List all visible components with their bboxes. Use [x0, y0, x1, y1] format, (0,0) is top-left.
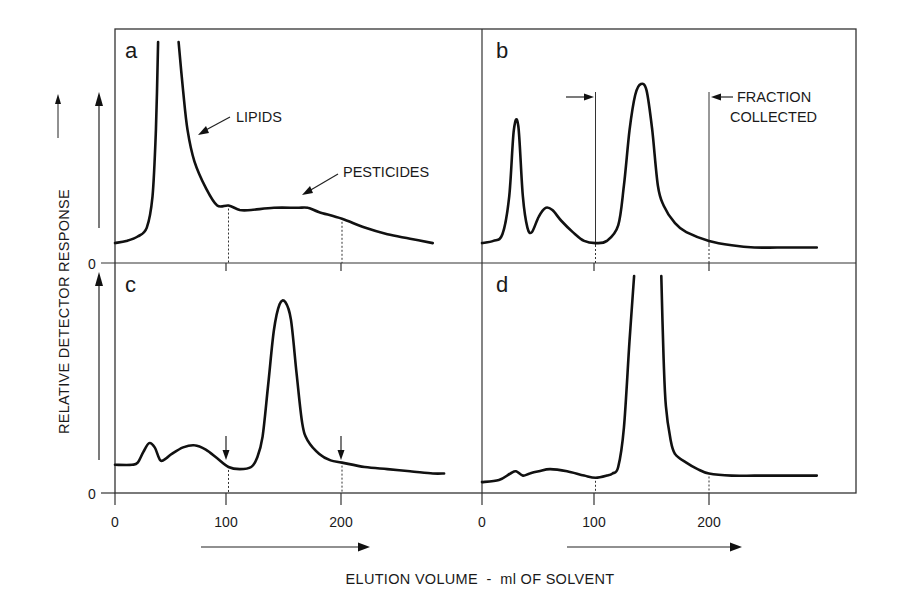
x-ticks-middle [226, 263, 709, 271]
x-arrow-right-icon [567, 543, 742, 552]
x-tick-200-right: 200 [697, 514, 721, 530]
chromatogram-curve-d [482, 276, 634, 482]
pesticides-pointer-icon [302, 174, 338, 195]
panel-a [115, 42, 433, 263]
x-tick-200-left: 200 [329, 514, 353, 530]
x-ticks-right: 0 100 200 [478, 493, 721, 530]
lipids-pointer-icon [198, 117, 230, 135]
y-axis-title-arrow-icon [55, 94, 61, 138]
y-arrow-top-icon [95, 92, 103, 228]
panel-c [115, 300, 444, 493]
panel-letter-b: b [496, 38, 508, 63]
chromatogram-curve-c [115, 300, 444, 473]
x-arrow-left-icon [201, 543, 370, 552]
cut-start-arrow-icon [223, 436, 230, 460]
svg-text:RELATIVE DETECTOR RESPONSE: RELATIVE DETECTOR RESPONSE [56, 189, 72, 434]
panel-letter-d: d [496, 272, 508, 297]
y-zero-label-top: 0 [88, 256, 96, 272]
annotation-pesticides: PESTICIDES [343, 164, 429, 180]
chromatogram-curve-a [115, 42, 158, 243]
fraction-start-arrow-icon [566, 94, 594, 101]
x-ticks-left: 0 100 200 [111, 493, 353, 530]
chromatogram-figure: 0 0 RELATIVE DETECTOR RESPONSE a b c d L… [0, 0, 897, 604]
annotation-fraction: FRACTION [737, 89, 811, 105]
y-axis-title: RELATIVE DETECTOR RESPONSE [56, 189, 72, 434]
y-arrow-bottom-icon [95, 272, 103, 460]
x-axis-title: ELUTION VOLUME - ml OF SOLVENT [346, 571, 615, 587]
annotation-collected: COLLECTED [730, 109, 817, 125]
chromatogram-curve-d [661, 276, 817, 476]
x-tick-0-right: 0 [478, 514, 486, 530]
panel-letter-a: a [125, 38, 138, 63]
panel-d [482, 276, 817, 493]
x-tick-100-right: 100 [582, 514, 606, 530]
annotation-lipids: LIPIDS [236, 109, 282, 125]
cut-end-arrow-icon [338, 436, 345, 460]
x-tick-0-left: 0 [111, 514, 119, 530]
x-tick-100-left: 100 [214, 514, 238, 530]
y-zero-label-bottom: 0 [88, 486, 96, 502]
fraction-end-arrow-icon [711, 94, 733, 101]
panel-letter-c: c [125, 272, 136, 297]
chromatogram-curve-a [179, 42, 433, 243]
